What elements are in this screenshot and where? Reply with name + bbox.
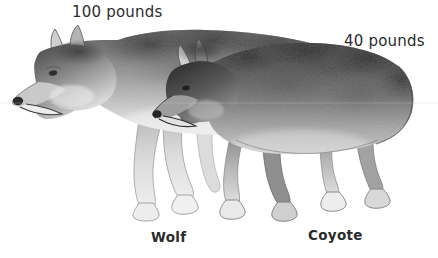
size-comparison-figure: 100 pounds 40 pounds Wolf Coyote <box>0 0 438 258</box>
coyote-nose <box>152 110 161 118</box>
coyote-species-label: Coyote <box>308 229 363 243</box>
coyote-weight-label: 40 pounds <box>344 34 425 49</box>
wolf-species-label: Wolf <box>151 231 186 245</box>
wolf-nose <box>13 97 23 105</box>
wolf-weight-label: 100 pounds <box>72 5 162 20</box>
